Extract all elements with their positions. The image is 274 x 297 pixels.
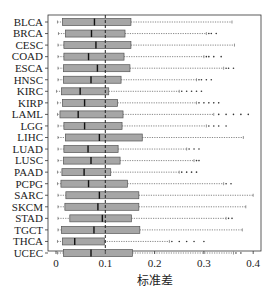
iqr-box: [61, 180, 128, 187]
y-tick-label: KIRC: [17, 85, 43, 97]
box-paad: [57, 169, 197, 176]
boxplot-chart: BLCABRCACESCCOADESCAHNSCKIRCKIRPLAMLLGGL…: [0, 0, 274, 297]
outlier-point: [218, 114, 220, 116]
box-lusc: [58, 157, 200, 164]
outlier-point: [208, 56, 210, 58]
iqr-box: [63, 157, 120, 164]
x-tick-label: 0.2: [148, 257, 162, 269]
box-stad: [58, 215, 233, 222]
outlier-point: [218, 102, 220, 104]
outlier-point: [181, 171, 183, 173]
y-tick-label: LUAD: [12, 143, 43, 155]
iqr-box: [63, 76, 121, 83]
y-tick-label: LGG: [20, 120, 43, 132]
box-cesc: [58, 42, 234, 49]
outlier-point: [193, 148, 195, 150]
iqr-box: [65, 203, 139, 210]
box-laml: [57, 111, 249, 118]
iqr-box: [65, 30, 125, 37]
plot-area: [48, 15, 261, 257]
box-lihc: [58, 134, 243, 141]
outlier-point: [201, 79, 203, 81]
outlier-point: [218, 125, 220, 127]
iqr-box: [62, 19, 131, 26]
outlier-point: [228, 218, 230, 220]
outlier-point: [213, 102, 215, 104]
iqr-box: [63, 65, 130, 72]
box-esca: [58, 65, 234, 72]
outlier-point: [186, 171, 188, 173]
y-tick-label: COAD: [12, 50, 43, 62]
y-tick-label: BRCA: [13, 27, 43, 39]
outlier-point: [198, 160, 200, 162]
outlier-point: [233, 114, 235, 116]
y-tick-label: BLCA: [14, 16, 43, 28]
box-tgct: [58, 226, 242, 233]
box-hnsc: [58, 76, 212, 83]
outlier-point: [240, 114, 242, 116]
box-thca: [57, 238, 204, 245]
box-pcpg: [57, 180, 231, 187]
outlier-point: [196, 160, 198, 162]
outlier-point: [198, 102, 200, 104]
outlier-point: [196, 171, 198, 173]
iqr-box: [62, 99, 117, 106]
box-skcm: [58, 203, 246, 210]
box-blca: [57, 19, 232, 26]
iqr-box: [64, 42, 131, 49]
outlier-point: [193, 241, 195, 243]
outlier-point: [210, 33, 212, 35]
iqr-box: [66, 192, 139, 199]
outlier-point: [220, 56, 222, 58]
outlier-point: [201, 91, 203, 93]
outlier-point: [225, 67, 227, 69]
outlier-point: [210, 79, 212, 81]
outlier-point: [191, 171, 193, 173]
outlier-point: [233, 67, 235, 69]
box-coad: [58, 53, 222, 60]
outlier-point: [208, 125, 210, 127]
iqr-box: [70, 215, 132, 222]
outlier-point: [215, 33, 217, 35]
outlier-point: [213, 56, 215, 58]
box-lgg: [58, 122, 227, 129]
iqr-box: [62, 238, 104, 245]
iqr-box: [64, 146, 118, 153]
outlier-point: [225, 183, 227, 185]
outlier-point: [208, 102, 210, 104]
box-brca: [58, 30, 217, 37]
iqr-box: [61, 226, 139, 233]
x-axis-label: 标准差: [137, 274, 173, 288]
iqr-box: [62, 169, 111, 176]
outlier-point: [213, 125, 215, 127]
y-tick-label: LAML: [12, 108, 43, 120]
outlier-point: [208, 33, 210, 35]
x-tick-label: 0: [53, 257, 59, 269]
outlier-point: [228, 67, 230, 69]
box-kirp: [57, 99, 219, 106]
outlier-point: [203, 241, 205, 243]
outlier-point: [206, 56, 208, 58]
y-tick-label: TGCT: [14, 224, 43, 236]
outlier-point: [235, 252, 237, 254]
iqr-box: [63, 250, 132, 257]
outlier-point: [196, 91, 198, 93]
chart-canvas: BLCABRCACESCCOADESCAHNSCKIRCKIRPLAMLLGGL…: [0, 0, 274, 297]
iqr-box: [60, 111, 123, 118]
outlier-point: [186, 91, 188, 93]
outlier-point: [230, 183, 232, 185]
outlier-point: [247, 114, 249, 116]
y-tick-label: PAAD: [14, 166, 43, 178]
outlier-point: [188, 148, 190, 150]
y-tick-label: SARC: [14, 189, 43, 201]
y-tick-label: CESC: [15, 39, 43, 51]
outlier-point: [231, 218, 233, 220]
box-luad: [58, 146, 200, 153]
outlier-point: [206, 79, 208, 81]
y-tick-label: THCA: [13, 235, 43, 247]
x-tick-label: 0.4: [246, 257, 260, 269]
y-tick-label: STAD: [15, 212, 43, 224]
outlier-point: [171, 241, 173, 243]
y-tick-label: KIRP: [18, 97, 43, 109]
y-tick-label: PCPG: [15, 178, 43, 190]
